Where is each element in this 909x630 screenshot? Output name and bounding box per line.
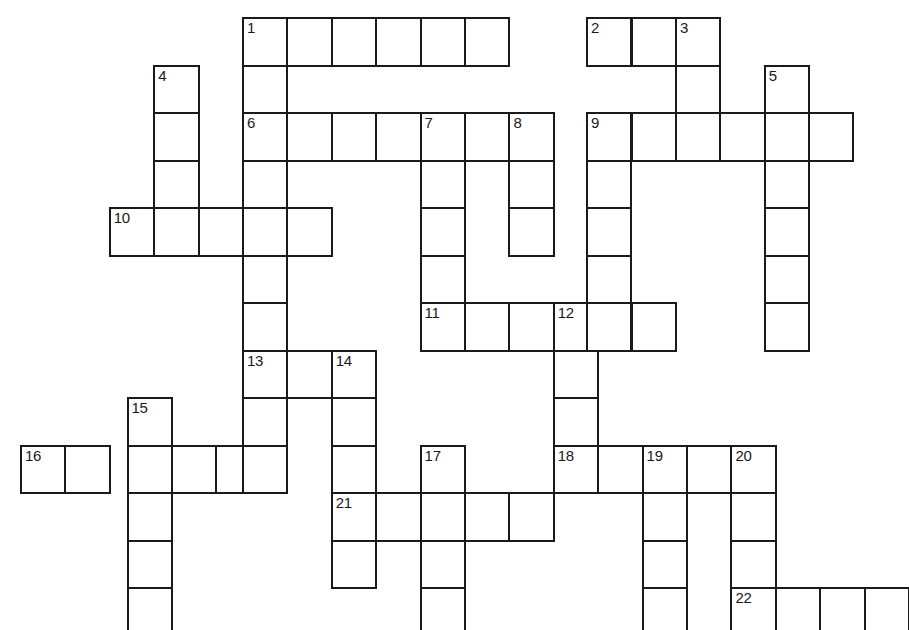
cell[interactable] bbox=[375, 492, 421, 542]
cell[interactable] bbox=[331, 112, 377, 162]
cell-numbered-4[interactable]: 4 bbox=[153, 65, 199, 115]
cell[interactable] bbox=[464, 17, 510, 67]
cell[interactable] bbox=[242, 445, 288, 495]
cell[interactable] bbox=[764, 207, 810, 257]
cell[interactable] bbox=[675, 112, 721, 162]
cell[interactable] bbox=[764, 302, 810, 352]
cell[interactable] bbox=[242, 397, 288, 447]
cell-number-label: 21 bbox=[336, 494, 352, 511]
cell-numbered-17[interactable]: 17 bbox=[420, 445, 466, 495]
cell-numbered-8[interactable]: 8 bbox=[508, 112, 554, 162]
cell[interactable] bbox=[675, 65, 721, 115]
cell-numbered-3[interactable]: 3 bbox=[675, 17, 721, 67]
cell[interactable] bbox=[642, 540, 688, 590]
cell[interactable] bbox=[420, 160, 466, 210]
cell-numbered-13[interactable]: 13 bbox=[242, 350, 288, 400]
cell[interactable] bbox=[864, 587, 909, 630]
cell-numbered-5[interactable]: 5 bbox=[764, 65, 810, 115]
cell[interactable] bbox=[586, 160, 632, 210]
cell[interactable] bbox=[586, 302, 632, 352]
cell[interactable] bbox=[331, 397, 377, 447]
cell-numbered-22[interactable]: 22 bbox=[730, 587, 776, 630]
cell[interactable] bbox=[764, 112, 810, 162]
cell[interactable] bbox=[198, 207, 244, 257]
cell[interactable] bbox=[331, 17, 377, 67]
cell-number-label: 4 bbox=[158, 67, 166, 84]
cell[interactable] bbox=[286, 207, 332, 257]
cell[interactable] bbox=[64, 445, 110, 495]
cell[interactable] bbox=[631, 302, 677, 352]
cell[interactable] bbox=[464, 112, 510, 162]
cell[interactable] bbox=[508, 207, 554, 257]
cell[interactable] bbox=[719, 112, 765, 162]
cell-number-label: 9 bbox=[591, 114, 599, 131]
cell[interactable] bbox=[508, 160, 554, 210]
cell[interactable] bbox=[420, 255, 466, 305]
cell[interactable] bbox=[764, 255, 810, 305]
crossword-grid[interactable]: 12345678910111213141516171819202122 bbox=[0, 0, 909, 630]
cell-numbered-18[interactable]: 18 bbox=[553, 445, 599, 495]
cell[interactable] bbox=[153, 160, 199, 210]
cell-numbered-15[interactable]: 15 bbox=[127, 397, 173, 447]
cell[interactable] bbox=[420, 540, 466, 590]
cell[interactable] bbox=[686, 445, 732, 495]
cell[interactable] bbox=[775, 587, 821, 630]
cell[interactable] bbox=[508, 302, 554, 352]
cell[interactable] bbox=[171, 445, 217, 495]
cell[interactable] bbox=[331, 445, 377, 495]
cell-numbered-20[interactable]: 20 bbox=[730, 445, 776, 495]
cell[interactable] bbox=[127, 445, 173, 495]
cell-numbered-1[interactable]: 1 bbox=[242, 17, 288, 67]
cell-number-label: 19 bbox=[647, 447, 663, 464]
cell-numbered-21[interactable]: 21 bbox=[331, 492, 377, 542]
cell[interactable] bbox=[286, 350, 332, 400]
cell[interactable] bbox=[153, 207, 199, 257]
cell[interactable] bbox=[331, 540, 377, 590]
cell[interactable] bbox=[730, 492, 776, 542]
cell[interactable] bbox=[375, 17, 421, 67]
cell[interactable] bbox=[819, 587, 865, 630]
cell-numbered-11[interactable]: 11 bbox=[420, 302, 466, 352]
cell[interactable] bbox=[464, 302, 510, 352]
cell[interactable] bbox=[508, 492, 554, 542]
cell[interactable] bbox=[127, 540, 173, 590]
cell[interactable] bbox=[642, 587, 688, 630]
cell-numbered-16[interactable]: 16 bbox=[20, 445, 66, 495]
cell-number-label: 1 bbox=[247, 19, 255, 36]
cell[interactable] bbox=[420, 207, 466, 257]
cell-numbered-14[interactable]: 14 bbox=[331, 350, 377, 400]
cell[interactable] bbox=[730, 540, 776, 590]
cell-numbered-19[interactable]: 19 bbox=[642, 445, 688, 495]
cell-numbered-7[interactable]: 7 bbox=[420, 112, 466, 162]
cell-numbered-6[interactable]: 6 bbox=[242, 112, 288, 162]
cell[interactable] bbox=[242, 302, 288, 352]
cell[interactable] bbox=[242, 65, 288, 115]
cell[interactable] bbox=[242, 160, 288, 210]
cell[interactable] bbox=[420, 492, 466, 542]
cell[interactable] bbox=[286, 17, 332, 67]
cell[interactable] bbox=[242, 255, 288, 305]
cell[interactable] bbox=[127, 492, 173, 542]
cell[interactable] bbox=[420, 587, 466, 630]
cell[interactable] bbox=[420, 17, 466, 67]
cell[interactable] bbox=[553, 397, 599, 447]
cell[interactable] bbox=[597, 445, 643, 495]
cell[interactable] bbox=[764, 160, 810, 210]
cell[interactable] bbox=[631, 112, 677, 162]
cell-numbered-10[interactable]: 10 bbox=[109, 207, 155, 257]
cell[interactable] bbox=[586, 207, 632, 257]
cell[interactable] bbox=[375, 112, 421, 162]
cell[interactable] bbox=[642, 492, 688, 542]
cell[interactable] bbox=[127, 587, 173, 630]
cell[interactable] bbox=[242, 207, 288, 257]
cell[interactable] bbox=[808, 112, 854, 162]
cell-numbered-2[interactable]: 2 bbox=[586, 17, 632, 67]
cell[interactable] bbox=[631, 17, 677, 67]
cell-numbered-9[interactable]: 9 bbox=[586, 112, 632, 162]
cell[interactable] bbox=[286, 112, 332, 162]
cell[interactable] bbox=[586, 255, 632, 305]
cell-number-label: 10 bbox=[114, 209, 130, 226]
cell[interactable] bbox=[464, 492, 510, 542]
cell[interactable] bbox=[553, 350, 599, 400]
cell[interactable] bbox=[153, 112, 199, 162]
